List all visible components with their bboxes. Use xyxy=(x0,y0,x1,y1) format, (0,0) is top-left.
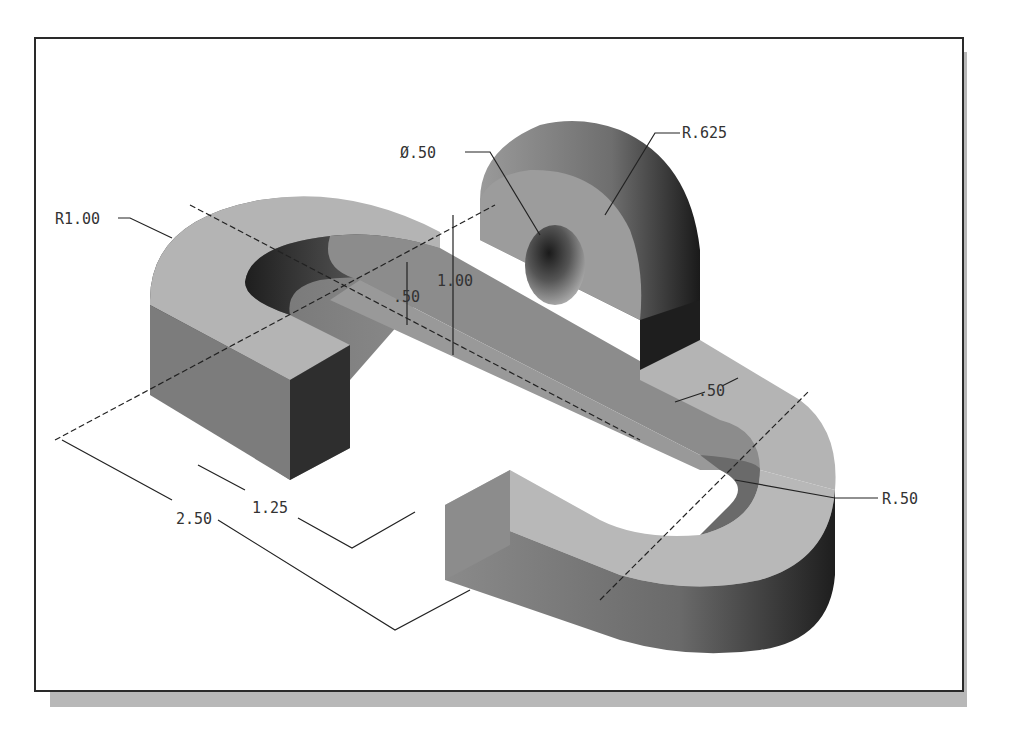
dim-base-thickness: .50 xyxy=(393,288,420,306)
dim-boss-radius: R.625 xyxy=(682,124,727,142)
hole xyxy=(525,225,585,305)
dim-boss-height: 1.00 xyxy=(437,272,473,290)
dim-length-short: 1.25 xyxy=(252,499,288,517)
isometric-drawing: Ø.50 R.625 R1.00 .50 1.00 .50 R.50 1.25 … xyxy=(0,0,1018,730)
dim-slot-width: .50 xyxy=(698,382,725,400)
dim-hole-diameter: Ø.50 xyxy=(400,144,436,162)
dim-inner-radius-right: R.50 xyxy=(882,490,918,508)
dim-outer-radius-left: R1.00 xyxy=(55,210,100,228)
dim-length-long: 2.50 xyxy=(176,510,212,528)
